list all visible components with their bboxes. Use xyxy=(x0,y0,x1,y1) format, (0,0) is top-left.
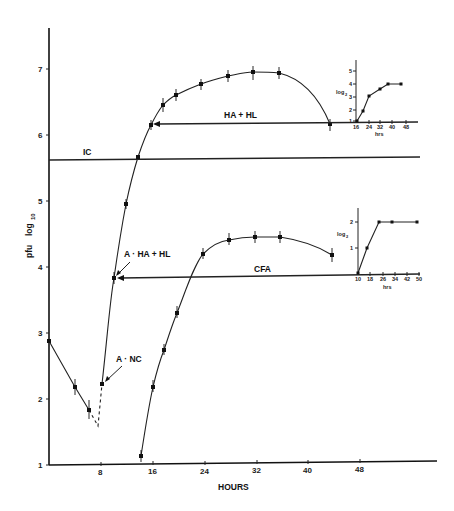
x-tick-16: 16 xyxy=(148,467,157,476)
svg-text:24: 24 xyxy=(366,124,373,130)
early-decline-line xyxy=(49,341,89,410)
x-axis-label: HOURS xyxy=(218,482,249,492)
inset1-ylabel: log xyxy=(336,89,344,95)
svg-text:2: 2 xyxy=(350,219,353,225)
data-points xyxy=(47,66,334,462)
svg-text:16: 16 xyxy=(353,124,359,130)
svg-text:26: 26 xyxy=(380,276,386,282)
y-tick-2: 2 xyxy=(38,395,43,404)
svg-text:log: log xyxy=(24,223,34,236)
ha-hl-label: HA + HL xyxy=(224,110,257,120)
x-tick-48: 48 xyxy=(355,465,364,474)
svg-text:4: 4 xyxy=(349,81,353,87)
svg-text:2: 2 xyxy=(346,234,349,239)
svg-text:42: 42 xyxy=(404,276,410,282)
y-tick-7: 7 xyxy=(38,65,43,74)
svg-text:2: 2 xyxy=(349,107,352,113)
ic-label: IC xyxy=(83,147,92,157)
x-tick-24: 24 xyxy=(200,467,209,476)
y-tick-3: 3 xyxy=(38,329,43,338)
y-ticks: 1 2 3 4 5 6 7 xyxy=(38,65,49,470)
svg-text:5: 5 xyxy=(349,68,352,74)
svg-text:18: 18 xyxy=(367,276,373,282)
ha-hl-arrowhead-icon xyxy=(153,121,160,127)
svg-text:10: 10 xyxy=(30,213,36,220)
svg-text:32: 32 xyxy=(377,124,383,130)
svg-text:34: 34 xyxy=(392,276,399,282)
svg-text:10: 10 xyxy=(355,276,361,282)
y-axis-label: pfu log 10 xyxy=(24,213,36,258)
growth-curve-chart: 1 2 3 4 5 6 7 8 16 24 32 40 48 HOURS pfu… xyxy=(0,0,454,511)
a-ha-hl-arrowhead-icon xyxy=(116,270,121,276)
ha-hl-curve xyxy=(102,72,330,384)
svg-text:48: 48 xyxy=(403,124,409,130)
inset-cfa: 1 2 log 2 10 18 26 34 42 50 hrs xyxy=(337,208,422,290)
inset2-xlabel: hrs xyxy=(383,284,392,290)
a-nc-arrowhead-icon xyxy=(105,376,110,382)
cfa-curve xyxy=(141,237,332,456)
x-tick-8: 8 xyxy=(98,468,103,477)
y-tick-5: 5 xyxy=(38,197,43,206)
svg-text:3: 3 xyxy=(349,94,352,100)
inset2-ylabel: log xyxy=(337,231,345,237)
svg-text:50: 50 xyxy=(416,276,422,282)
a-nc-label: A · NC xyxy=(116,354,142,364)
svg-text:40: 40 xyxy=(389,124,395,130)
svg-text:pfu: pfu xyxy=(24,245,34,258)
ic-line xyxy=(49,157,420,160)
x-axis xyxy=(49,461,437,465)
y-tick-6: 6 xyxy=(38,131,43,140)
inset-ha-hl: 1 2 3 4 5 log 2 16 24 32 40 48 hrs xyxy=(336,60,409,137)
eclipse-dashed-line xyxy=(89,384,102,426)
svg-text:2: 2 xyxy=(345,92,348,97)
x-tick-32: 32 xyxy=(252,466,261,475)
y-tick-4: 4 xyxy=(38,263,43,272)
cfa-arrow-line xyxy=(120,274,420,278)
cfa-arrowhead-icon xyxy=(117,275,124,281)
a-ha-hl-label: A · HA + HL xyxy=(124,249,170,259)
svg-text:1: 1 xyxy=(349,118,352,124)
x-tick-40: 40 xyxy=(303,466,312,475)
cfa-label: CFA xyxy=(254,264,271,274)
svg-text:1: 1 xyxy=(350,245,353,251)
a-nc-pointer xyxy=(107,366,122,380)
inset1-xlabel: hrs xyxy=(375,131,384,137)
y-tick-1: 1 xyxy=(38,461,43,470)
